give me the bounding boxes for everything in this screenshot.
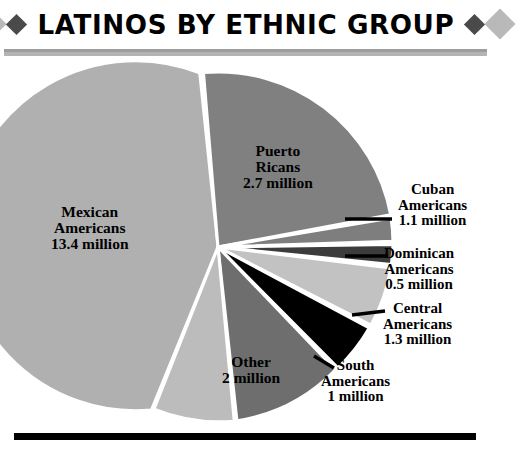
slice-label-line: Americans — [384, 262, 454, 278]
slice-label-line: Ricans — [243, 159, 313, 175]
slice-label-line: Puerto — [243, 143, 313, 159]
slice-label-line: Dominican — [384, 246, 454, 262]
slice-value: 1 million — [321, 389, 390, 405]
slice-label-mexican-americans: Mexican Americans 13.4 million — [51, 204, 129, 252]
slice-label-line: Central — [383, 301, 452, 317]
slice-label-puerto-ricans: Puerto Ricans 2.7 million — [243, 143, 313, 191]
title-row: LATINOS BY ETHNIC GROUP — [0, 2, 491, 46]
diamond-ornament-icon — [464, 13, 485, 34]
slice-label-other: Other 2 million — [222, 354, 280, 386]
slice-label-line: Americans — [398, 198, 467, 214]
diamond-ornament-icon — [6, 13, 27, 34]
slice-label-line: Mexican — [51, 204, 129, 220]
page-title: LATINOS BY ETHNIC GROUP — [37, 11, 454, 38]
slice-label-dominican-americans: Dominican Americans 0.5 million — [384, 246, 454, 293]
slice-label-line: Americans — [51, 220, 129, 236]
slice-label-south-americans: South Americans 1 million — [321, 358, 390, 405]
slice-value: 2.7 million — [243, 175, 313, 191]
header-divider — [4, 49, 487, 56]
slice-label-line: South — [321, 358, 390, 374]
slice-value: 2 million — [222, 370, 280, 386]
diamond-ornament-icon — [485, 8, 516, 39]
slice-value: 1.1 million — [398, 213, 467, 229]
slice-value: 0.5 million — [384, 277, 454, 293]
slice-label-line: Americans — [321, 374, 390, 390]
slice-value: 1.3 million — [383, 332, 452, 348]
slice-label-line: Cuban — [398, 182, 467, 198]
chart-header: LATINOS BY ETHNIC GROUP — [0, 0, 491, 56]
slice-value: 13.4 million — [51, 236, 129, 252]
slice-label-line: Other — [222, 354, 280, 370]
pie-chart: Mexican Americans 13.4 million Puerto Ri… — [0, 56, 491, 428]
slice-label-cuban-americans: Cuban Americans 1.1 million — [398, 182, 467, 229]
slice-label-line: Americans — [383, 317, 452, 333]
footer-divider — [14, 433, 476, 440]
slice-label-central-americans: Central Americans 1.3 million — [383, 301, 452, 348]
